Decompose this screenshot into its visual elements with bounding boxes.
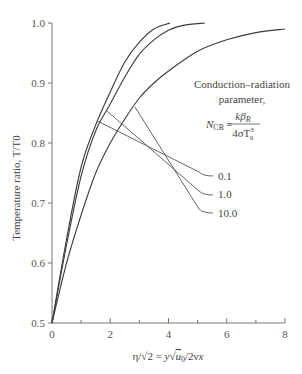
x-tick-label: 8 — [282, 328, 288, 340]
curves — [52, 23, 285, 323]
y-tick-label: 0.7 — [31, 197, 45, 209]
x-axis-label: η/√2 = y√u0/2νx — [133, 350, 204, 364]
leader-lines — [97, 107, 213, 213]
formula-numerator: kβR — [235, 110, 250, 124]
label-ncr-10.0: 10.0 — [218, 207, 238, 219]
y-tick-label: 0.5 — [31, 317, 45, 329]
y-tick-label: 0.9 — [31, 77, 45, 89]
x-tick-label: 0 — [49, 328, 55, 340]
x-tick-label: 4 — [166, 328, 172, 340]
annotation-line1: Conduction–radiation — [194, 78, 290, 90]
curve-ncr-0.1 — [52, 23, 170, 323]
leader-line-0.1 — [97, 121, 213, 176]
label-ncr-1.0: 1.0 — [218, 188, 232, 200]
leader-line-10.0 — [135, 107, 213, 213]
parameter-annotation: Conduction–radiation parameter, NCR= kβR… — [194, 78, 290, 142]
y-tick-label: 0.8 — [31, 137, 45, 149]
ncr-formula: NCR= kβR 4σT30 — [205, 110, 260, 142]
annotation-line2: parameter, — [219, 93, 266, 105]
curve-ncr-10.0 — [52, 29, 285, 323]
temperature-ratio-chart: 0.50.60.70.80.91.002468 Temperature rati… — [0, 0, 302, 374]
curve-ncr-1.0 — [52, 23, 205, 323]
y-axis-label: Temperature ratio, T/T0 — [10, 135, 22, 241]
label-ncr-0.1: 0.1 — [218, 170, 232, 182]
formula-lhs: NCR= — [205, 118, 232, 132]
axes: 0.50.60.70.80.91.002468 — [31, 17, 288, 340]
x-tick-label: 2 — [108, 328, 114, 340]
y-axis-label-text: Temperature ratio, T/T0 — [10, 135, 22, 241]
y-tick-label: 1.0 — [31, 17, 45, 29]
x-tick-label: 6 — [224, 328, 230, 340]
formula-denominator: 4σT30 — [232, 126, 254, 142]
y-tick-label: 0.6 — [31, 257, 45, 269]
